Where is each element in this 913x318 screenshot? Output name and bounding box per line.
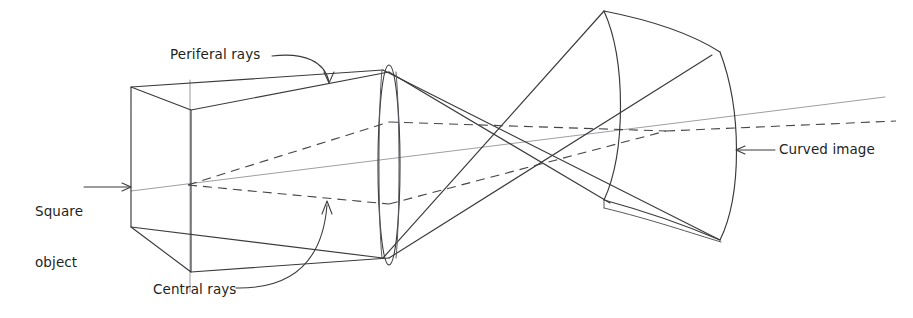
lens-inner-left-edge (379, 70, 382, 258)
peripheral-ray-7 (383, 11, 604, 258)
peripheral-ray-2 (191, 72, 389, 110)
peripheral-ray-5 (383, 70, 720, 240)
label-central-rays: Central rays (153, 281, 237, 298)
peripheral-ray-6 (389, 72, 610, 203)
periferal-rays-leader-line (272, 55, 329, 82)
central-ray-5 (666, 121, 896, 131)
square-object-plane (131, 87, 191, 272)
image-edge-right (720, 52, 737, 240)
lens-group (378, 65, 400, 265)
image-edge-bottom (604, 200, 720, 240)
central-rays-leader-line (236, 205, 327, 288)
image-edge-bottom-secondary (604, 208, 721, 242)
image-edge-top (604, 11, 720, 52)
square-object-outline (131, 87, 191, 272)
label-periferal-rays: Periferal rays (170, 46, 260, 63)
central-ray-2 (188, 185, 389, 204)
diagram-canvas (0, 0, 913, 318)
image-edge-left (604, 11, 621, 200)
peripheral-ray-8 (389, 55, 712, 258)
lens-ellipse (378, 65, 400, 265)
label-square-object-line1: Square (35, 203, 83, 220)
label-curved-image: Curved image (779, 141, 875, 158)
peripheral-ray-1 (131, 70, 383, 87)
central-ray-1 (188, 122, 389, 185)
label-square-object: Square object (35, 168, 83, 306)
curved-image-surface (604, 11, 737, 242)
peripheral-rays-object-to-lens (131, 70, 389, 272)
label-square-object-line2: object (35, 254, 83, 271)
central-rays-lens-to-image (389, 121, 896, 204)
peripheral-ray-3 (131, 227, 383, 258)
optical-axis-line (131, 97, 885, 191)
peripheral-ray-4 (191, 258, 389, 272)
lens-inner-right-edge (396, 72, 399, 258)
optical-axis-group (131, 97, 885, 191)
optics-diagram: Square object Periferal rays Central ray… (0, 0, 913, 318)
leader-lines-group (84, 55, 775, 288)
